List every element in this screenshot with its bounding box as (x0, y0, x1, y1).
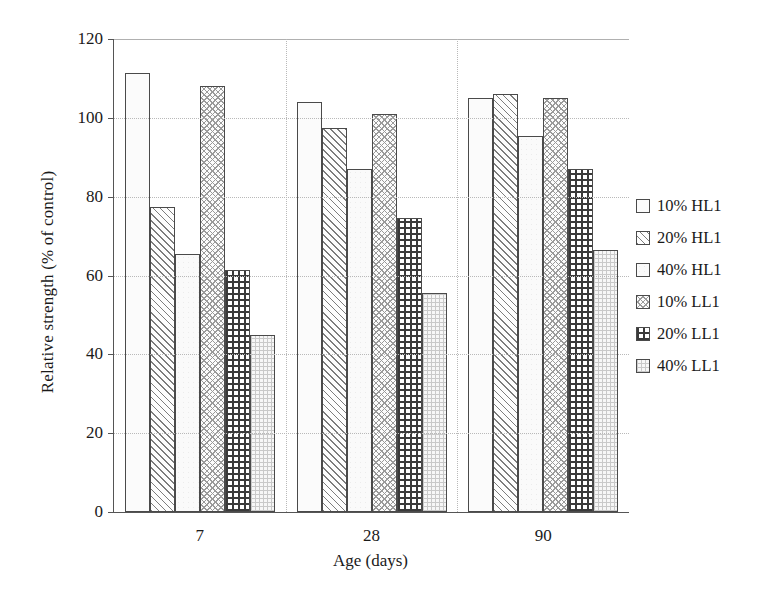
y-axis-tick-labels: 020406080100120 (43, 39, 103, 512)
bar-chart: Relative strength (% of control) 0204060… (0, 0, 777, 606)
y-tick-label-100: 100 (43, 108, 103, 128)
legend-swatch-icon-2 (636, 263, 650, 277)
y-tick-80 (108, 197, 114, 198)
y-tick-0 (108, 512, 114, 513)
bar-10hl1-28 (297, 102, 322, 512)
x-tick-label-7: 7 (114, 526, 286, 546)
group-separator-1 (286, 39, 287, 512)
gridline-20 (114, 433, 629, 434)
gridline-120 (114, 39, 629, 40)
y-tick-20 (108, 433, 114, 434)
legend-item-40ll1[interactable]: 40% LL1 (636, 356, 722, 376)
legend-swatch-icon-5 (636, 359, 650, 373)
legend-swatch-icon-3 (636, 295, 650, 309)
legend-label: 10% LL1 (657, 292, 720, 312)
gridline-100 (114, 118, 629, 119)
y-tick-label-40: 40 (43, 344, 103, 364)
bar-20hl1-90 (493, 94, 518, 512)
legend-item-10ll1[interactable]: 10% LL1 (636, 292, 722, 312)
bar-10ll1-7 (200, 86, 225, 512)
gridline-40 (114, 354, 629, 355)
legend-label: 20% HL1 (657, 228, 722, 248)
y-tick-label-60: 60 (43, 266, 103, 286)
bar-10ll1-28 (372, 114, 397, 512)
bar-40hl1-7 (175, 254, 200, 512)
legend-label: 40% HL1 (657, 260, 722, 280)
legend-label: 40% LL1 (657, 356, 720, 376)
plot-area: 72890 (113, 39, 629, 513)
legend-item-20ll1[interactable]: 20% LL1 (636, 324, 722, 344)
bar-10ll1-90 (543, 98, 568, 512)
bar-20hl1-28 (322, 128, 347, 512)
bar-40ll1-90 (593, 250, 618, 512)
y-tick-label-0: 0 (43, 502, 103, 522)
y-tick-label-80: 80 (43, 187, 103, 207)
gridline-60 (114, 276, 629, 277)
bar-20ll1-90 (568, 169, 593, 512)
x-axis-title: Age (days) (113, 551, 628, 571)
bar-40ll1-28 (422, 293, 447, 512)
chart-legend: 10% HL120% HL140% HL110% LL120% LL140% L… (636, 196, 722, 376)
bar-40hl1-90 (518, 136, 543, 512)
bar-40hl1-28 (347, 169, 372, 512)
y-tick-100 (108, 118, 114, 119)
bar-40ll1-7 (250, 335, 275, 512)
legend-swatch-icon-1 (636, 231, 650, 245)
bar-20ll1-7 (225, 270, 250, 512)
y-tick-60 (108, 276, 114, 277)
x-tick-label-28: 28 (286, 526, 458, 546)
y-tick-label-20: 20 (43, 423, 103, 443)
bar-10hl1-7 (125, 73, 150, 512)
legend-label: 20% LL1 (657, 324, 720, 344)
y-tick-40 (108, 354, 114, 355)
y-tick-label-120: 120 (43, 29, 103, 49)
bar-10hl1-90 (468, 98, 493, 512)
gridline-80 (114, 197, 629, 198)
legend-item-20hl1[interactable]: 20% HL1 (636, 228, 722, 248)
bar-20hl1-7 (150, 207, 175, 512)
legend-swatch-icon-0 (636, 199, 650, 213)
x-tick-label-90: 90 (457, 526, 629, 546)
legend-label: 10% HL1 (657, 196, 722, 216)
legend-item-10hl1[interactable]: 10% HL1 (636, 196, 722, 216)
legend-item-40hl1[interactable]: 40% HL1 (636, 260, 722, 280)
legend-swatch-icon-4 (636, 327, 650, 341)
y-tick-120 (108, 39, 114, 40)
group-separator-2 (457, 39, 458, 512)
bar-20ll1-28 (397, 218, 422, 512)
